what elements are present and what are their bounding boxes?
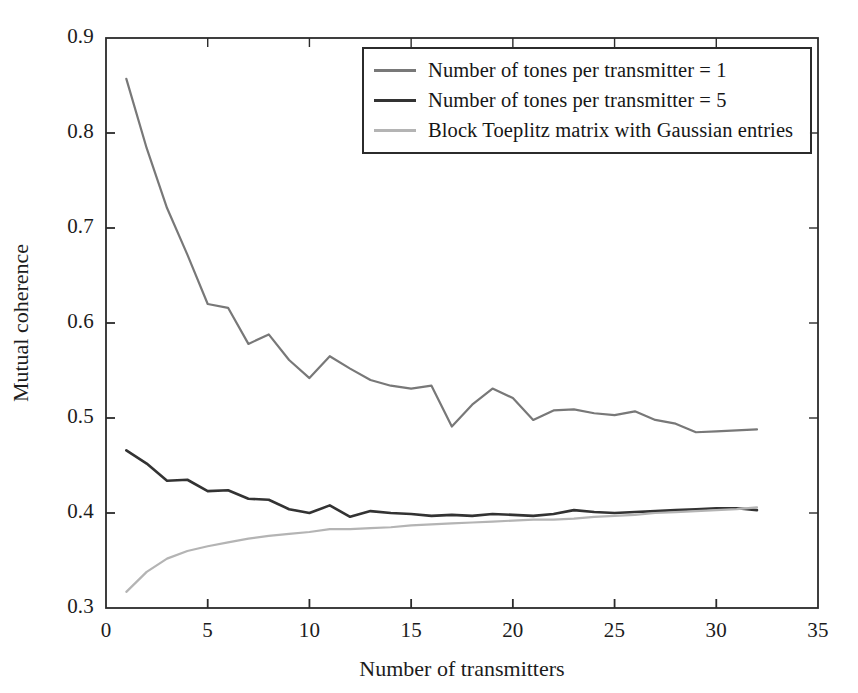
x-tick-label: 30 [676,618,756,643]
x-tick-label: 15 [371,618,451,643]
y-tick-label: 0.5 [0,404,94,429]
y-tick-label: 0.3 [0,594,94,619]
chart-legend: Number of tones per transmitter = 1Numbe… [362,47,812,154]
x-tick-label: 0 [66,618,146,643]
x-tick-label: 5 [168,618,248,643]
legend-item-label: Number of tones per transmitter = 5 [428,89,727,112]
y-tick-label: 0.8 [0,119,94,144]
legend-line-swatch [374,99,416,102]
legend-item: Block Toeplitz matrix with Gaussian entr… [374,115,798,145]
legend-item-label: Block Toeplitz matrix with Gaussian entr… [428,119,793,142]
legend-line-swatch [374,69,416,72]
legend-item-label: Number of tones per transmitter = 1 [428,59,727,82]
legend-line-swatch [374,129,416,132]
y-axis-title: Mutual coherence [8,244,34,402]
x-tick-label: 35 [778,618,858,643]
x-tick-label: 25 [575,618,655,643]
x-tick-label: 20 [473,618,553,643]
series-line-2 [126,450,757,517]
y-tick-label: 0.9 [0,24,94,49]
x-axis-title: Number of transmitters [106,656,818,682]
y-tick-label: 0.4 [0,499,94,524]
y-tick-label: 0.7 [0,214,94,239]
series-line-3 [126,507,757,592]
chart-figure: 0.30.40.50.60.70.80.9 05101520253035 Mut… [0,0,858,693]
legend-item: Number of tones per transmitter = 5 [374,85,798,115]
legend-item: Number of tones per transmitter = 1 [374,55,798,85]
x-tick-label: 10 [269,618,349,643]
